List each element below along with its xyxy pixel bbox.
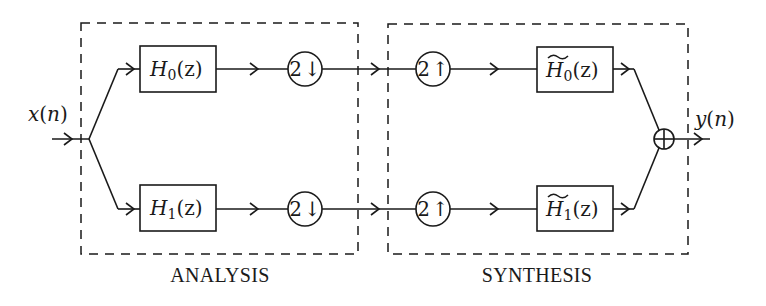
synthesis-filter-h0-label: H0(z) [545, 58, 599, 84]
analysis-caption: ANALYSIS [170, 264, 269, 286]
filter-bank-diagram: x(n) H0(z) 2↓ 2↑ [0, 0, 766, 306]
adder [654, 129, 674, 149]
channel-1: H1(z) 2↓ 2↑ H1(z) [140, 148, 659, 231]
downsampler-0-label: 2↓ [289, 57, 321, 81]
downsampler-1-label: 2↓ [289, 197, 321, 221]
upsampler-1-label: 2↑ [417, 197, 449, 221]
input-label: x(n) [28, 102, 68, 126]
synthesis-filter-h1-label: H1(z) [545, 197, 599, 223]
analysis-filter-h1-label: H1(z) [149, 196, 203, 222]
analysis-filter-h0-label: H0(z) [149, 57, 203, 83]
output-wire [674, 133, 710, 145]
output-label: y(n) [694, 107, 735, 131]
channel-0: H0(z) 2↓ 2↑ H0(z) [140, 46, 659, 130]
synthesis-caption: SYNTHESIS [482, 264, 593, 286]
input-wire [52, 63, 140, 215]
upsampler-0-label: 2↑ [417, 57, 449, 81]
